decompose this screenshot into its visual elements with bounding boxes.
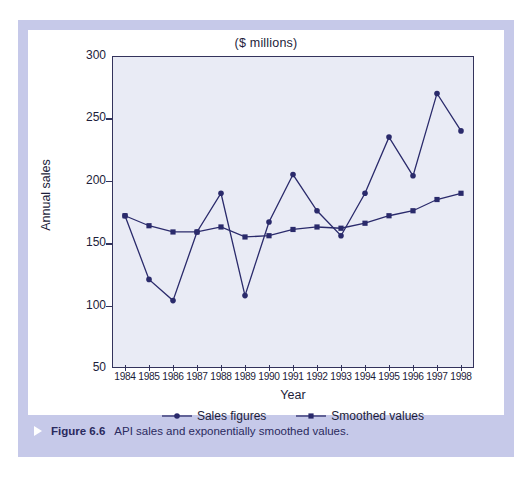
data-point-marker [314,224,319,229]
data-point-marker [338,233,344,239]
data-point-marker [266,233,271,238]
data-point-marker [362,190,368,196]
x-axis-ticks: 1984198519861987198819891990199119921993… [112,371,474,387]
caption-text: API sales and exponentially smoothed val… [114,425,349,437]
data-point-marker [362,221,367,226]
y-tick-mark [106,118,112,119]
data-point-marker [314,208,320,214]
series-line [125,93,461,300]
data-point-marker [146,277,152,283]
data-point-marker [290,227,295,232]
plot-wrapper: 50100150200250300 Annual sales 198419851… [28,30,504,415]
chart-svg [112,56,474,368]
data-point-marker [458,191,463,196]
y-tick-label: 150 [66,235,106,249]
figure-caption: Figure 6.6 API sales and exponentially s… [28,415,504,447]
figure-container: ($ millions) 50100150200250300 Annual sa… [18,20,514,457]
y-tick-label: 100 [66,298,106,312]
series-layer [122,91,464,304]
y-axis-title: Annual sales [39,140,53,250]
x-axis-title: Year [112,388,474,402]
y-tick-label: 200 [66,173,106,187]
data-point-marker [434,197,439,202]
y-tick-label: 300 [66,48,106,62]
data-point-marker [170,229,175,234]
data-point-marker [386,134,392,140]
data-point-marker [410,208,415,213]
data-point-marker [242,293,248,299]
data-point-marker [122,213,127,218]
caption-number: Figure 6.6 [51,425,105,437]
data-point-marker [386,213,391,218]
data-point-marker [170,298,176,304]
data-point-marker [194,229,199,234]
data-point-marker [290,172,296,178]
y-tick-mark [106,243,112,244]
data-point-marker [242,234,247,239]
data-point-marker [338,226,343,231]
y-tick-label: 250 [66,110,106,124]
data-point-marker [266,219,272,225]
data-point-marker [434,91,440,97]
y-tick-label: 50 [66,360,106,374]
y-tick-mark [106,181,112,182]
x-tick-label: 1998 [444,371,478,382]
data-point-marker [218,190,224,196]
y-tick-mark [106,306,112,307]
chart-panel: ($ millions) 50100150200250300 Annual sa… [28,30,504,415]
data-point-marker [218,224,223,229]
triangle-right-icon [34,426,42,436]
data-point-marker [410,173,416,179]
data-point-marker [458,128,464,134]
y-axis-ticks: 50100150200250300 [58,56,106,368]
data-point-marker [146,223,151,228]
